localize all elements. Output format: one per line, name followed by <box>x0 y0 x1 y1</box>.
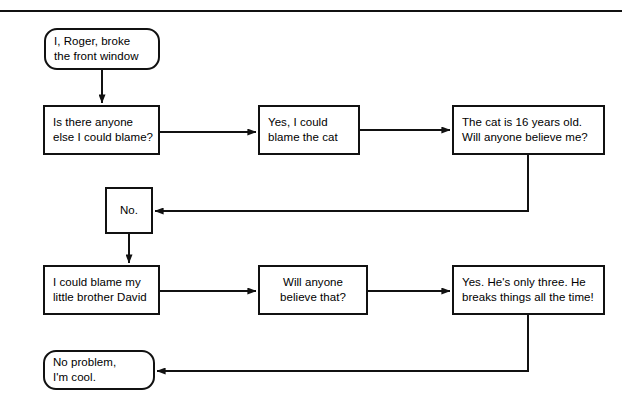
node-blame-brother: I could blame my little brother David <box>43 265 160 315</box>
node-believe-that-line-2: believe that? <box>280 290 346 305</box>
node-cat-age-line-1: The cat is 16 years old. <box>462 115 599 130</box>
flowchart-canvas: I, Roger, broke the front window Is ther… <box>0 0 622 415</box>
node-blame-cat-line-2: blame the cat <box>268 130 354 145</box>
node-blame-question-line-2: else I could blame? <box>53 130 154 145</box>
node-start-line-2: the front window <box>54 49 154 64</box>
node-only-three-line-2: breaks things all the time! <box>462 290 599 305</box>
node-no-problem-line-1: No problem, <box>53 355 149 370</box>
node-cat-age: The cat is 16 years old. Will anyone bel… <box>452 105 605 155</box>
edge-three-to-noproblem <box>157 315 528 371</box>
node-blame-cat-line-1: Yes, I could <box>268 115 354 130</box>
node-believe-that-line-1: Will anyone <box>283 275 343 290</box>
edge-catage-to-no <box>155 155 528 211</box>
node-only-three: Yes. He's only three. He breaks things a… <box>452 265 605 315</box>
node-no-problem: No problem, I'm cool. <box>43 350 155 390</box>
node-start-line-1: I, Roger, broke <box>54 34 154 49</box>
node-blame-brother-line-2: little brother David <box>53 290 154 305</box>
node-cat-age-line-2: Will anyone believe me? <box>462 130 599 145</box>
node-blame-question: Is there anyone else I could blame? <box>43 105 160 155</box>
node-blame-question-line-1: Is there anyone <box>53 115 154 130</box>
node-blame-cat: Yes, I could blame the cat <box>258 105 360 155</box>
node-start: I, Roger, broke the front window <box>44 28 160 70</box>
node-no-line-1: No. <box>120 203 138 218</box>
node-only-three-line-1: Yes. He's only three. He <box>462 275 599 290</box>
node-no-problem-line-2: I'm cool. <box>53 370 149 385</box>
node-no: No. <box>105 187 153 234</box>
node-blame-brother-line-1: I could blame my <box>53 275 154 290</box>
node-believe-that: Will anyone believe that? <box>258 265 368 315</box>
